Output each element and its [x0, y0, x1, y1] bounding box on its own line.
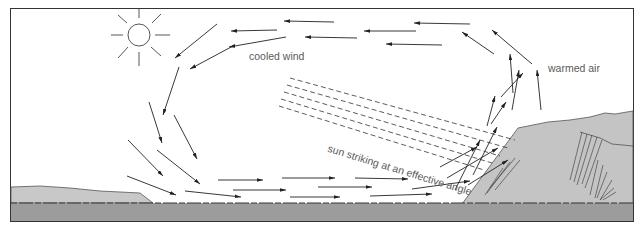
label-warmed-air: warmed air: [548, 62, 600, 74]
label-cooled-wind: cooled wind: [249, 50, 304, 62]
wind-circulation-diagram: [0, 0, 643, 229]
ground-band: [11, 203, 633, 221]
